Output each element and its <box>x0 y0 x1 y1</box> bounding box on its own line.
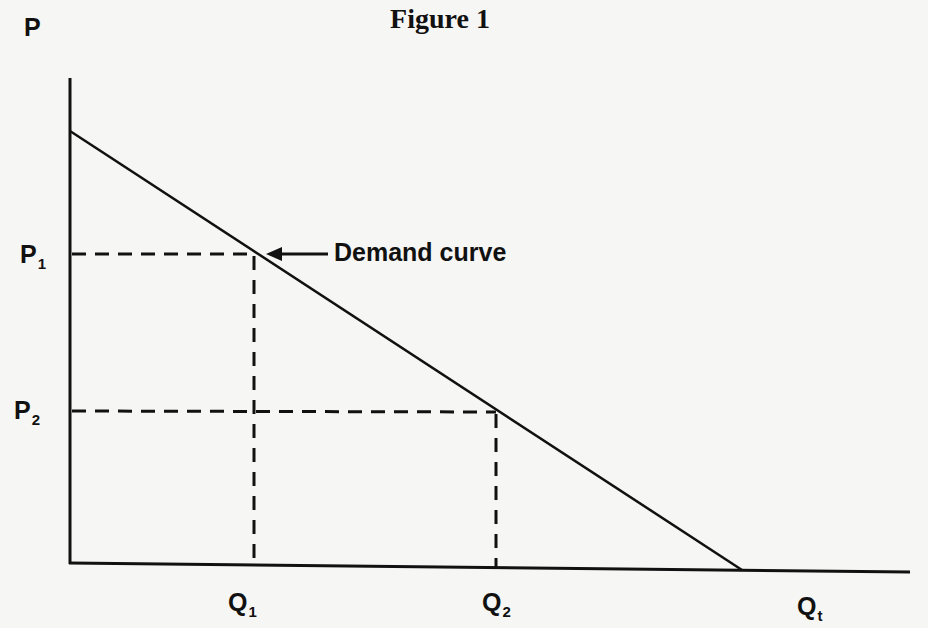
demand-diagram <box>0 0 928 628</box>
y-axis-label: P <box>24 15 41 40</box>
p2-horizontal-dashed <box>72 411 496 412</box>
q2-label: Q2 <box>482 590 511 619</box>
demand-curve-line <box>70 131 742 570</box>
x-axis <box>69 563 910 572</box>
q1-label: Q1 <box>228 590 257 619</box>
demand-curve-label: Demand curve <box>334 240 506 265</box>
p2-label: P2 <box>14 398 40 427</box>
p1-label: P1 <box>20 242 46 271</box>
qt-label: Qt <box>797 594 822 623</box>
arrow-head-icon <box>266 247 282 261</box>
